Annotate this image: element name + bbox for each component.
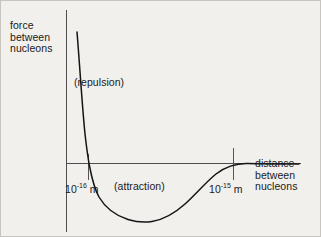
- tick-label-1e-15-exponent: -15: [221, 182, 231, 189]
- x-axis-label: distance between nucleons: [255, 158, 297, 193]
- tick-label-1e-15: 10-15 m: [209, 180, 243, 195]
- tick-label-1e-16-unit: m: [87, 183, 99, 195]
- nucleon-force-diagram: force between nucleons distance between …: [0, 0, 321, 237]
- repulsion-region-label: (repulsion): [74, 77, 124, 89]
- tick-label-1e-16-exponent: -16: [77, 182, 87, 189]
- tick-label-1e-15-mantissa: 10: [209, 183, 221, 195]
- tick-label-1e-15-unit: m: [231, 183, 243, 195]
- tick-label-1e-16: 10-16 m: [65, 180, 99, 195]
- force-curve: [77, 32, 299, 222]
- attraction-region-label: (attraction): [114, 181, 165, 193]
- tick-label-1e-16-mantissa: 10: [65, 183, 77, 195]
- y-axis-label: force between nucleons: [10, 20, 52, 55]
